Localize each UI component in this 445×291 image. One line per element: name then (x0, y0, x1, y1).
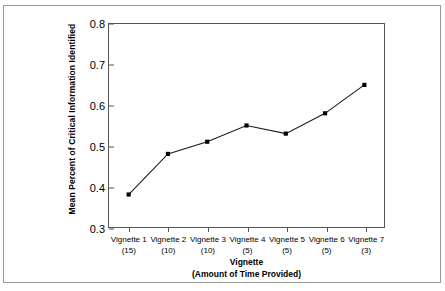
data-point-marker (323, 111, 327, 115)
x-tick-label-name: Vignette 3 (190, 235, 226, 244)
x-tick-label-name: Vignette 1 (111, 235, 147, 244)
y-tick-mark (109, 229, 114, 230)
x-tick-mark (327, 227, 328, 232)
x-tick-label-time: (10) (190, 245, 226, 256)
x-axis-title-main: Vignette (230, 257, 263, 267)
x-tick-label: Vignette 5(5) (269, 234, 305, 256)
data-point-marker (284, 132, 288, 136)
x-tick-mark (366, 227, 367, 232)
x-tick-label-name: Vignette 5 (269, 235, 305, 244)
data-point-marker (166, 152, 170, 156)
x-tick-label-time: (10) (150, 245, 186, 256)
data-point-marker (362, 83, 366, 87)
y-tick-label: 0.8 (90, 18, 105, 30)
y-tick-label: 0.4 (90, 182, 105, 194)
x-tick-mark (208, 227, 209, 232)
x-tick-label-time: (3) (348, 245, 384, 256)
x-tick-label-time: (5) (230, 245, 266, 256)
x-tick-label-time: (5) (269, 245, 305, 256)
figure-panel: Mean Percent of Critical Information Ide… (3, 5, 441, 283)
x-axis-title-sub: (Amount of Time Provided) (108, 268, 385, 280)
y-axis-title: Mean Percent of Critical Information Ide… (67, 14, 77, 224)
x-tick-label: Vignette 2(10) (150, 234, 186, 256)
plot-area: 0.80.70.60.50.40.3 Vignette 1(15)Vignett… (108, 23, 385, 228)
x-tick-mark (287, 227, 288, 232)
x-tick-label: Vignette 1(15) (111, 234, 147, 256)
x-tick-label: Vignette 3(10) (190, 234, 226, 256)
x-tick-label-name: Vignette 2 (150, 235, 186, 244)
y-tick-label: 0.6 (90, 100, 105, 112)
x-tick-label-time: (15) (111, 245, 147, 256)
y-tick-label: 0.3 (90, 223, 105, 235)
x-tick-label-name: Vignette 6 (309, 235, 345, 244)
data-point-marker (127, 192, 131, 196)
x-tick-label: Vignette 4(5) (230, 234, 266, 256)
x-tick-label-name: Vignette 7 (348, 235, 384, 244)
series-line (129, 85, 365, 195)
y-tick-label: 0.5 (90, 141, 105, 153)
data-point-marker (244, 123, 248, 127)
data-point-marker (205, 140, 209, 144)
x-tick-label: Vignette 7(3) (348, 234, 384, 256)
x-tick-label-name: Vignette 4 (230, 235, 266, 244)
x-tick-label: Vignette 6(5) (309, 234, 345, 256)
x-tick-mark (129, 227, 130, 232)
y-tick-label: 0.7 (90, 59, 105, 71)
x-tick-mark (168, 227, 169, 232)
x-tick-mark (248, 227, 249, 232)
x-axis-title: Vignette (Amount of Time Provided) (108, 256, 385, 280)
x-tick-label-time: (5) (309, 245, 345, 256)
line-series (109, 24, 384, 227)
